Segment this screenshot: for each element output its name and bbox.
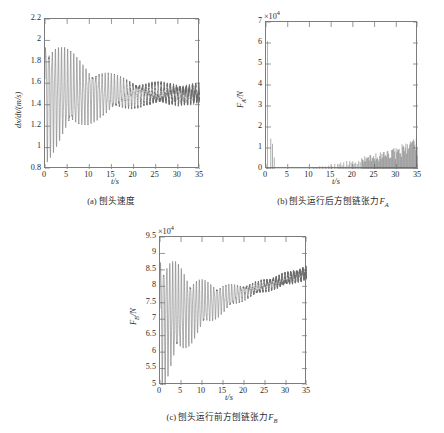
x-tick-label: 0 xyxy=(253,171,277,179)
x-tick-label: 0 xyxy=(32,171,56,179)
panel-a-curve xyxy=(45,19,200,169)
y-tick-label: 1.6 xyxy=(14,78,41,86)
x-tick-label: 5 xyxy=(54,171,78,179)
subplot-c: ×104 55.566.577.588.599.5 05101520253035… xyxy=(111,215,333,433)
panel-b-x-axis-label: t/s xyxy=(332,177,340,186)
y-tick-label: 1.8 xyxy=(14,57,41,65)
y-tick-label: 7.5 xyxy=(129,298,156,306)
x-tick-label: 20 xyxy=(121,171,145,179)
figure-root: 0.811.21.41.61.822.2 05101520253035 dx/d… xyxy=(0,0,444,433)
x-tick-label: 25 xyxy=(143,171,167,179)
x-tick-label: 30 xyxy=(165,171,189,179)
x-tick-label: 10 xyxy=(76,171,100,179)
panel-c-exponent: ×104 xyxy=(158,224,174,236)
panel-a-plot-area xyxy=(44,18,199,168)
panel-c-y-axis-label: FB/N xyxy=(129,308,140,325)
x-tick-label: 25 xyxy=(362,171,386,179)
panel-c-x-axis-label: t/s xyxy=(225,393,233,402)
y-tick-label: 9 xyxy=(129,248,156,256)
panel-b-exponent: ×104 xyxy=(264,9,280,21)
y-tick-label: 8 xyxy=(129,281,156,289)
x-tick-label: 20 xyxy=(340,171,364,179)
y-tick-label: 2 xyxy=(14,35,41,43)
panel-b-curve xyxy=(266,22,418,169)
x-tick-label: 5 xyxy=(275,171,299,179)
y-tick-label: 7 xyxy=(235,17,262,25)
y-tick-label: 9.5 xyxy=(129,232,156,240)
subplot-b: ×104 01234567 05101520253035 FA/N t/s (b… xyxy=(222,0,444,215)
x-tick-label: 35 xyxy=(294,387,318,395)
y-tick-label: 2 xyxy=(235,122,262,130)
panel-a-y-axis-label: dx/dt/(m/s) xyxy=(14,92,23,128)
y-tick-label: 6.5 xyxy=(129,330,156,338)
y-tick-label: 1 xyxy=(235,143,262,151)
y-tick-label: 5.5 xyxy=(129,363,156,371)
panel-c-caption: (c) 刨头运行前方刨链张力FB xyxy=(111,410,333,424)
y-tick-label: 5 xyxy=(235,59,262,67)
x-tick-label: 10 xyxy=(296,171,320,179)
x-tick-label: 30 xyxy=(383,171,407,179)
panel-b-y-axis-label: FA/N xyxy=(236,91,247,108)
panel-b-plot-area xyxy=(265,21,417,168)
y-tick-label: 6 xyxy=(129,347,156,355)
panel-a-x-axis-label: t/s xyxy=(111,177,119,186)
panel-c-plot-area xyxy=(159,236,306,384)
y-tick-label: 4 xyxy=(235,80,262,88)
y-tick-label: 6 xyxy=(235,38,262,46)
x-tick-label: 35 xyxy=(405,171,429,179)
subplot-a: 0.811.21.41.61.822.2 05101520253035 dx/d… xyxy=(0,0,222,215)
panel-b-caption: (b) 刨头运行后方刨链张力FA xyxy=(222,194,444,208)
y-tick-label: 2.2 xyxy=(14,14,41,22)
y-tick-label: 1 xyxy=(14,142,41,150)
panel-a-caption: (a) 刨头速度 xyxy=(0,194,222,206)
x-tick-label: 35 xyxy=(187,171,211,179)
panel-c-curve xyxy=(160,237,307,385)
y-tick-label: 8.5 xyxy=(129,265,156,273)
